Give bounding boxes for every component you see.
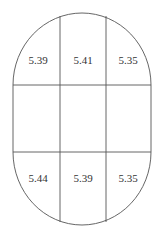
cell-r3-c1: 5.44 <box>28 172 48 184</box>
cell-r3-c3: 5.35 <box>118 172 138 184</box>
cell-r3-c2: 5.39 <box>73 172 93 184</box>
stadium-grid-diagram: 5.39 5.41 5.35 5.44 5.39 5.35 <box>0 0 159 236</box>
cell-r1-c3: 5.35 <box>118 54 138 66</box>
cell-r1-c2: 5.41 <box>73 54 92 66</box>
cell-r1-c1: 5.39 <box>28 54 48 66</box>
stadium-outline <box>13 13 151 225</box>
